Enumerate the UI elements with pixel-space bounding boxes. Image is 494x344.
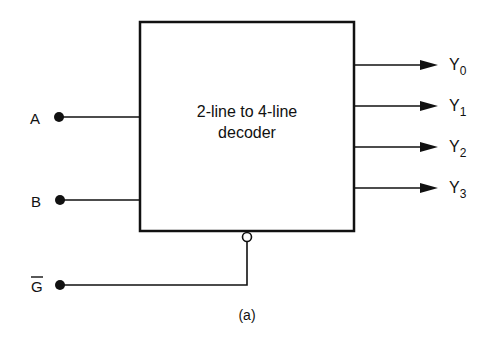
input-g-wire <box>60 242 247 285</box>
decoder-diagram: 2-line to 4-line decoder A B G Y0 Y1 Y2 <box>0 0 494 344</box>
input-g-enable: G <box>31 233 252 296</box>
block-label-line1: 2-line to 4-line <box>197 103 298 120</box>
output-y3-label: Y3 <box>449 179 467 201</box>
figure-caption: (a) <box>238 307 255 323</box>
output-y2: Y2 <box>354 138 467 160</box>
arrow-right-icon <box>420 183 438 193</box>
output-y3: Y3 <box>354 179 467 201</box>
output-y1: Y1 <box>354 97 467 119</box>
arrow-right-icon <box>420 101 438 111</box>
output-y2-label: Y2 <box>449 138 467 160</box>
input-b: B <box>31 193 140 210</box>
arrow-right-icon <box>420 142 438 152</box>
inversion-bubble <box>243 233 252 242</box>
output-y1-label: Y1 <box>449 97 467 119</box>
arrow-right-icon <box>420 60 438 70</box>
output-y0: Y0 <box>354 56 467 78</box>
output-y0-label: Y0 <box>449 56 467 78</box>
input-a-label: A <box>30 110 40 127</box>
input-g-label: G <box>31 278 43 295</box>
input-a: A <box>30 110 140 127</box>
input-b-label: B <box>31 193 41 210</box>
block-label-line2: decoder <box>218 124 276 141</box>
